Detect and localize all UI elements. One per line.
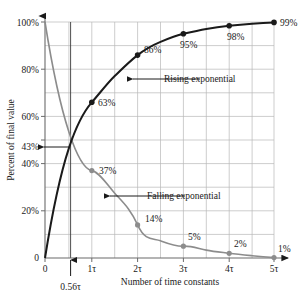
falling-label-2tau: 14%	[145, 214, 163, 224]
x-axis-ticks	[45, 258, 274, 262]
rising-label-2tau: 86%	[144, 45, 162, 55]
x-tick-label-5tau: 5τ	[270, 264, 279, 274]
rising-exponential-annotation: Rising exponential	[164, 74, 236, 84]
y-axis-ticks	[41, 22, 45, 211]
falling-label-3tau: 5%	[188, 232, 201, 242]
y-tick-label-0: 0	[34, 253, 39, 263]
rising-label-1tau: 63%	[98, 98, 116, 108]
falling-label-4tau: 2%	[234, 239, 247, 249]
rising-point-4tau	[226, 23, 232, 29]
y-tick-label-100: 100%	[17, 18, 39, 28]
crossover-time-label: 0.56τ	[60, 282, 81, 292]
x-tick-label-4tau: 4τ	[225, 264, 234, 274]
y-tick-label-80: 80%	[22, 65, 40, 75]
rising-point-1tau	[89, 100, 95, 106]
falling-label-5tau: 1%	[278, 244, 291, 254]
falling-point-5tau	[271, 255, 276, 260]
falling-point-1tau	[89, 168, 94, 173]
chart-svg: 100% 80% 60% 43% 40% 20% 0 0 1τ 2τ 3τ 4τ…	[0, 0, 298, 301]
falling-point-2tau	[135, 222, 140, 227]
rising-label-3tau: 95%	[180, 40, 198, 50]
rising-point-3tau	[181, 31, 187, 37]
falling-label-1tau: 37%	[99, 166, 117, 176]
rising-label-4tau: 98%	[227, 32, 245, 42]
y-tick-label-20: 20%	[22, 206, 40, 216]
rising-label-5tau: 99%	[280, 18, 298, 28]
rising-point-5tau	[271, 20, 277, 26]
x-tick-label-0: 0	[43, 264, 48, 274]
y-tick-label-40: 40%	[22, 159, 40, 169]
falling-point-4tau	[227, 251, 232, 256]
x-tick-label-3tau: 3τ	[179, 264, 188, 274]
x-tick-label-2tau: 2τ	[133, 264, 142, 274]
x-tick-label-1tau: 1τ	[88, 264, 97, 274]
rising-point-2tau	[135, 52, 141, 58]
y-tick-label-43: 43%	[22, 142, 40, 152]
y-tick-label-60: 60%	[22, 112, 40, 122]
exponential-curves-chart: 100% 80% 60% 43% 40% 20% 0 0 1τ 2τ 3τ 4τ…	[0, 0, 298, 301]
y-axis-title: Percent of final value	[6, 99, 16, 181]
falling-exponential-annotation: Falling exponential	[147, 191, 221, 201]
x-axis-title: Number of time constants	[121, 277, 220, 287]
falling-point-3tau	[181, 244, 186, 249]
